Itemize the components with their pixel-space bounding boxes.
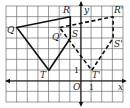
vertex-label-r-prime: R' [113,5,123,15]
x-tick-label: 1 [89,83,94,92]
grid [6,6,123,102]
y-axis-arrow-up-icon [79,1,83,6]
y-axis-arrow-down-icon [79,102,83,107]
vertex-label-r: R [62,5,70,15]
vertex-label-q: Q [7,25,15,35]
vertex-label-s: S [72,29,78,39]
vertex-label-q-prime: Q' [52,32,62,42]
x-axis-label: x [118,82,123,92]
vertex-label-t-prime: T' [92,70,100,80]
y-tick-label: 1 [74,66,79,75]
quadrilateral-qrst [17,17,71,71]
y-axis-label: y [83,5,90,15]
figures [17,17,113,71]
coordinate-plane-diagram: x y O 1 1 Q R S T Q' R' S' T' [0,0,130,108]
vertex-label-t: T [40,70,47,80]
origin-label: O [73,82,81,92]
vertex-label-s-prime: S' [114,39,123,49]
